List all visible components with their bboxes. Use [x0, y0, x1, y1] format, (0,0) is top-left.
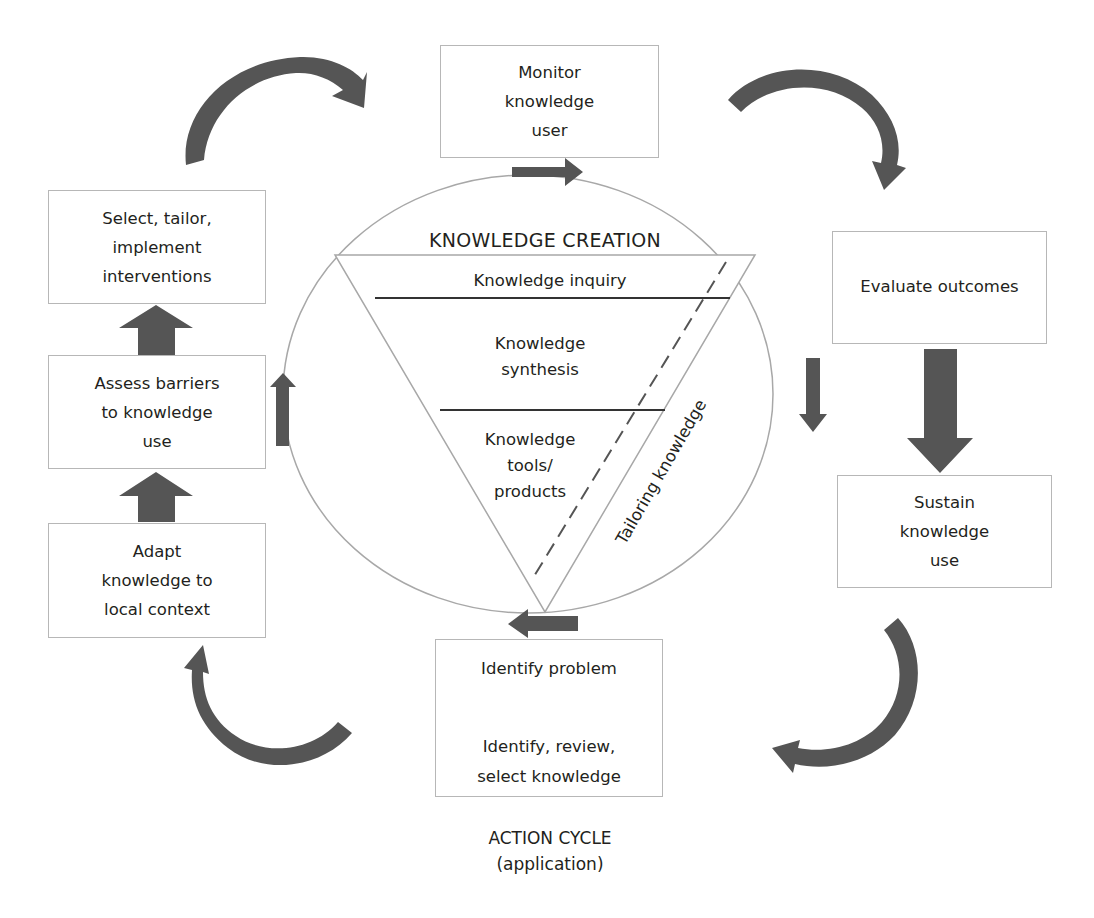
curved-arrow-icon: [728, 70, 906, 190]
knowledge-creation-title: KNOWLEDGE CREATION: [395, 229, 695, 251]
assess-label: Assess barriers to knowledge use: [94, 369, 219, 456]
identify-problem-box: Identify problem Identify, review, selec…: [435, 639, 663, 797]
identify-problem-label: Identify problem: [436, 654, 662, 683]
knowledge-tools-label: Knowledge tools/ products: [430, 427, 630, 505]
adapt-knowledge-box: Adapt knowledge to local context: [48, 523, 266, 638]
monitor-label: Monitor knowledge user: [505, 58, 594, 145]
evaluate-label: Evaluate outcomes: [860, 272, 1018, 301]
monitor-knowledge-use-box: Monitor knowledge user: [440, 45, 659, 158]
assess-barriers-box: Assess barriers to knowledge use: [48, 355, 266, 469]
knowledge-synthesis-label: Knowledge synthesis: [440, 331, 640, 383]
block-arrow-down-icon: [907, 349, 973, 473]
action-cycle-caption: ACTION CYCLE (application): [440, 825, 660, 877]
identify-review-select-label: Identify, review, select knowledge: [436, 732, 662, 792]
arrow-down-icon: [799, 358, 827, 432]
curved-arrow-icon: [772, 618, 918, 773]
knowledge-inquiry-label: Knowledge inquiry: [420, 268, 680, 294]
block-arrow-up-icon: [119, 472, 193, 522]
arrow-right-icon: [512, 158, 583, 186]
curved-arrow-icon: [186, 57, 367, 165]
select-tailor-implement-box: Select, tailor, implement interventions: [48, 190, 266, 304]
select-label: Select, tailor, implement interventions: [102, 204, 211, 291]
sustain-label: Sustain knowledge use: [900, 488, 989, 575]
sustain-knowledge-use-box: Sustain knowledge use: [837, 475, 1052, 588]
arrow-up-icon: [270, 373, 296, 446]
adapt-label: Adapt knowledge to local context: [101, 537, 212, 624]
block-arrow-up-icon: [119, 305, 193, 355]
evaluate-outcomes-box: Evaluate outcomes: [832, 231, 1047, 344]
curved-arrow-icon: [184, 645, 352, 765]
